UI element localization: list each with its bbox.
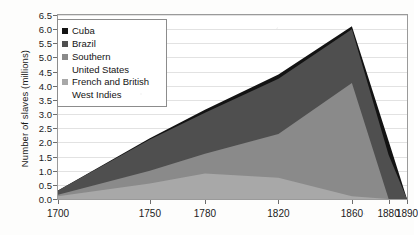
x-axis-tick-label: 1700 [47,208,69,219]
y-axis-tick-label: 5.5 [0,38,52,49]
x-axis-tick-label: 1820 [267,208,289,219]
y-axis-tick-label: 4.0 [0,80,52,91]
legend-item-label-continued: United States [72,64,161,76]
x-axis-tick-mark [150,200,151,204]
x-axis-tick-label: 1750 [139,208,161,219]
x-axis-tick-label: 1780 [194,208,216,219]
x-axis-ticks: 1700175017801820186018801890 [0,200,414,235]
x-axis-tick-mark [278,200,279,204]
x-axis-tick-label: 1890 [396,208,418,219]
legend-swatch-icon [62,79,68,85]
chart-legend: CubaBrazilSouthernUnited StatesFrench an… [57,19,167,107]
x-axis-tick-mark [352,200,353,204]
legend-item-label: Southern [72,51,111,63]
legend-swatch-icon [62,41,68,47]
y-axis-tick-label: 1.5 [0,151,52,162]
legend-swatch-icon [62,28,68,34]
x-axis-tick-mark [407,200,408,204]
x-axis-tick-mark [389,200,390,204]
y-axis-tick-label: 0.5 [0,179,52,190]
legend-item-label: Cuba [72,25,95,37]
legend-item: Southern [62,51,161,63]
legend-item: French and British [62,76,161,88]
legend-item-label-continued: West Indies [72,89,161,101]
x-axis-tick-label: 1860 [341,208,363,219]
y-axis-tick-label: 6.5 [0,10,52,21]
y-axis-tick-label: 2.5 [0,123,52,134]
x-axis-tick-mark [205,200,206,204]
legend-item-label: French and British [72,76,149,88]
y-axis-tick-label: 4.5 [0,66,52,77]
y-axis-tick-label: 2.0 [0,137,52,148]
x-axis-tick-mark [58,200,59,204]
y-axis-tick-label: 3.0 [0,109,52,120]
legend-item-label: Brazil [72,38,96,50]
y-axis-tick-label: 6.0 [0,24,52,35]
legend-item: Cuba [62,25,161,37]
legend-swatch-icon [62,54,68,60]
y-axis-tick-label: 1.0 [0,165,52,176]
y-axis-tick-label: 3.5 [0,94,52,105]
legend-item: Brazil [62,38,161,50]
y-axis-tick-label: 5.0 [0,52,52,63]
